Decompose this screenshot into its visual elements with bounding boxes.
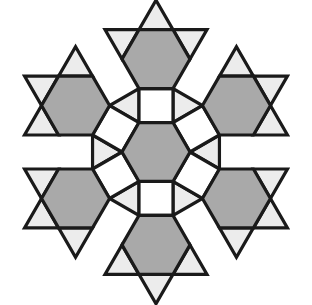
hexagon-tile <box>122 30 190 89</box>
hexagon-tile <box>42 76 110 135</box>
hexagon-tile <box>202 169 270 228</box>
hexagon-tile <box>122 123 190 182</box>
figure-root <box>0 0 312 305</box>
square-tile <box>139 181 173 215</box>
square-tile <box>139 89 173 123</box>
hexagon-tile <box>42 169 110 228</box>
hexagon-tile <box>202 76 270 135</box>
hexagon-tile <box>122 215 190 274</box>
tessellation-diagram <box>0 0 312 305</box>
